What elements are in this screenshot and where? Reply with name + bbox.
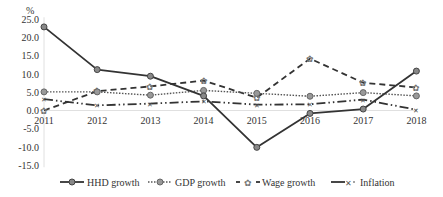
- legend-item-inflation: ✕ Inflation: [331, 177, 394, 188]
- star-marker-icon: ✿: [244, 178, 252, 188]
- data-point-marker: [360, 106, 366, 112]
- y-tick-label: 10.0: [22, 69, 40, 80]
- data-point-marker: ✿: [40, 106, 48, 116]
- y-tick-label: -15.0: [18, 160, 39, 171]
- y-tick-label: -10.0: [18, 142, 39, 153]
- data-point-marker: ✕: [94, 102, 100, 110]
- data-point-marker: ✿: [359, 78, 367, 88]
- data-point-marker: [201, 93, 207, 99]
- data-point-marker: ✿: [146, 82, 154, 92]
- legend-item-hhd-growth: HHD growth: [60, 177, 140, 188]
- circle-marker-icon: [157, 179, 163, 185]
- circle-marker-icon: [69, 179, 75, 185]
- y-axis: 25.020.015.010.05.00.0-5.0-10.0-15.0: [18, 14, 44, 171]
- legend-label: Wage growth: [262, 177, 315, 188]
- data-point-marker: [254, 144, 260, 150]
- data-point-marker: [307, 110, 313, 116]
- y-tick-label: 20.0: [22, 32, 40, 43]
- data-point-marker: ✕: [307, 101, 313, 109]
- x-tick-label: 2017: [353, 115, 373, 126]
- data-point-marker: [413, 93, 419, 99]
- cross-marker-icon: ✕: [345, 179, 352, 188]
- legend-label: GDP growth: [175, 177, 225, 188]
- legend-item-wage-growth: ✿ Wage growth: [236, 177, 315, 188]
- data-point-marker: [413, 68, 419, 74]
- legend: HHD growth GDP growth ✿ Wage growth ✕ In…: [60, 177, 394, 188]
- legend-item-gdp-growth: GDP growth: [148, 177, 225, 188]
- data-point-marker: [147, 92, 153, 98]
- legend-label: HHD growth: [87, 177, 140, 188]
- data-point-marker: ✕: [201, 98, 207, 106]
- data-point-marker: [307, 93, 313, 99]
- x-tick-label: 2014: [194, 115, 214, 126]
- data-point-marker: [41, 24, 47, 30]
- data-point-marker: [147, 73, 153, 79]
- data-point-marker: ✕: [147, 101, 153, 109]
- x-tick-label: 2011: [34, 115, 54, 126]
- line-chart: % 25.020.015.010.05.00.0-5.0-10.0-15.0 2…: [0, 0, 443, 197]
- data-point-marker: ✕: [360, 97, 366, 105]
- x-tick-label: 2018: [406, 115, 426, 126]
- x-axis: 20112012201320142015201620172018: [34, 111, 426, 126]
- legend-label: Inflation: [360, 177, 394, 188]
- data-point-marker: ✿: [412, 83, 420, 93]
- data-point-marker: [360, 90, 366, 96]
- y-tick-label: 25.0: [22, 14, 40, 25]
- data-point-marker: [41, 89, 47, 95]
- data-point-marker: ✿: [200, 76, 208, 86]
- data-point-marker: ✕: [413, 107, 419, 115]
- series-lines: ✕✕✕✕✕✕✕✕✿✿✿✿✿✿✿✿: [40, 24, 420, 150]
- y-tick-label: 5.0: [27, 87, 40, 98]
- data-point-marker: [94, 67, 100, 73]
- x-tick-label: 2015: [247, 115, 267, 126]
- x-tick-label: 2012: [87, 115, 107, 126]
- data-point-marker: ✕: [41, 96, 47, 104]
- x-tick-label: 2013: [140, 115, 160, 126]
- data-point-marker: [254, 90, 260, 96]
- data-point-marker: ✿: [306, 54, 314, 64]
- data-point-marker: [94, 89, 100, 95]
- y-tick-label: 15.0: [22, 50, 40, 61]
